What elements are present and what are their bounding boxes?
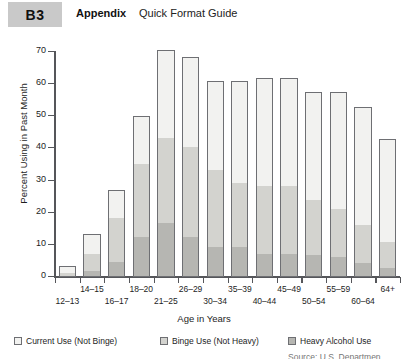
x-tick-mark <box>351 277 352 283</box>
appendix-badge: B3 <box>8 2 62 27</box>
x-tick-mark <box>375 277 376 283</box>
x-tick-label: 64+ <box>371 284 405 294</box>
x-tick-label: 60–64 <box>346 296 380 306</box>
x-tick-mark <box>326 277 327 283</box>
bar-21-25 <box>157 50 174 277</box>
bar-16-17 <box>108 190 125 277</box>
bar-segment-heavy <box>158 223 173 276</box>
stacked-bar-chart: Percent Using in Past Month 010203040506… <box>0 34 408 324</box>
y-tick-label: 30 <box>20 174 46 184</box>
x-tick-label: 12–13 <box>50 296 84 306</box>
x-tick-mark <box>203 277 204 283</box>
legend-item-binge-use-not-heavy: Binge Use (Not Heavy) <box>160 336 259 346</box>
legend-swatch-icon <box>160 337 168 345</box>
bar-segment-binge <box>380 242 395 268</box>
x-tick-label: 21–25 <box>149 296 183 306</box>
bar-segment-current <box>331 93 346 208</box>
bar-segment-heavy <box>355 263 370 276</box>
x-tick-mark <box>104 277 105 283</box>
bar-segment-current <box>281 79 296 186</box>
y-tick-mark <box>48 180 54 181</box>
x-tick-label: 35–39 <box>223 284 257 294</box>
legend-item-heavy-alcohol-use: Heavy Alcohol Use <box>288 336 371 346</box>
x-tick-mark <box>80 277 81 283</box>
bar-segment-binge <box>109 218 124 261</box>
page-header: B3 Appendix Quick Format Guide <box>0 0 408 30</box>
bar-segment-heavy <box>208 247 223 276</box>
bar-segment-binge <box>257 186 272 254</box>
legend-swatch-icon <box>14 337 22 345</box>
x-tick-label: 30–34 <box>198 296 232 306</box>
appendix-badge-label: B3 <box>26 7 45 23</box>
bar-segment-current <box>183 58 198 148</box>
appendix-subtitle: Quick Format Guide <box>139 7 237 19</box>
plot-area <box>55 52 400 277</box>
y-tick-label: 70 <box>20 45 46 55</box>
x-tick-label: 16–17 <box>100 296 134 306</box>
y-tick-mark <box>48 276 54 277</box>
bar-segment-heavy <box>109 262 124 276</box>
legend-item-current-use-not-binge: Current Use (Not Binge) <box>14 336 117 346</box>
bar-segment-current <box>158 51 173 137</box>
bar-segment-current <box>84 235 99 254</box>
y-tick-label: 40 <box>20 141 46 151</box>
bar-segment-current <box>380 140 395 242</box>
bar-segment-heavy <box>232 247 247 276</box>
bar-segment-heavy <box>183 237 198 276</box>
bar-60-64 <box>354 107 371 277</box>
bar-30-34 <box>207 81 224 277</box>
y-tick-mark <box>48 244 54 245</box>
x-tick-mark <box>178 277 179 283</box>
legend-swatch-icon <box>288 337 296 345</box>
x-tick-mark <box>55 277 56 283</box>
bar-segment-binge <box>331 209 346 257</box>
y-tick-label: 0 <box>20 270 46 280</box>
y-tick-mark <box>48 147 54 148</box>
legend-label: Current Use (Not Binge) <box>26 336 117 346</box>
legend-label: Heavy Alcohol Use <box>300 336 371 346</box>
x-tick-label: 55–59 <box>321 284 355 294</box>
x-tick-label: 18–20 <box>124 284 158 294</box>
bar-64+ <box>379 139 396 277</box>
bar-55-59 <box>330 92 347 277</box>
legend-label: Binge Use (Not Heavy) <box>172 336 259 346</box>
x-tick-label: 14–15 <box>75 284 109 294</box>
x-tick-mark <box>301 277 302 283</box>
bar-segment-heavy <box>257 254 272 277</box>
y-tick-mark <box>48 83 54 84</box>
y-tick-mark <box>48 115 54 116</box>
bar-segment-heavy <box>380 268 395 276</box>
bar-segment-heavy <box>281 254 296 277</box>
bar-14-15 <box>83 234 100 277</box>
bar-segment-current <box>355 108 370 225</box>
bar-45-49 <box>280 78 297 277</box>
y-tick-label: 10 <box>20 238 46 248</box>
y-tick-mark <box>48 51 54 52</box>
bar-segment-binge <box>134 164 149 238</box>
bar-50-54 <box>305 92 322 277</box>
bar-18-20 <box>133 116 150 277</box>
bar-segment-binge <box>84 254 99 272</box>
chart-legend: Current Use (Not Binge)Binge Use (Not He… <box>0 336 408 350</box>
bar-segment-binge <box>281 186 296 254</box>
bar-segment-current <box>306 93 321 200</box>
bar-segment-heavy <box>306 255 321 276</box>
bar-segment-binge <box>306 200 321 255</box>
y-tick-label: 60 <box>20 77 46 87</box>
y-tick-label: 20 <box>20 206 46 216</box>
x-tick-mark <box>277 277 278 283</box>
bar-segment-heavy <box>134 237 149 276</box>
bar-35-39 <box>231 81 248 277</box>
x-tick-mark <box>154 277 155 283</box>
bar-segment-current <box>257 79 272 186</box>
x-tick-label: 26–29 <box>174 284 208 294</box>
bar-segment-heavy <box>84 271 99 276</box>
bar-segment-binge <box>232 183 247 247</box>
bar-segment-binge <box>60 273 75 276</box>
bar-40-44 <box>256 78 273 277</box>
appendix-title: Appendix <box>76 7 126 19</box>
bar-12-13 <box>59 266 76 277</box>
bar-segment-binge <box>158 138 173 223</box>
x-tick-label: 40–44 <box>247 296 281 306</box>
x-tick-mark <box>228 277 229 283</box>
